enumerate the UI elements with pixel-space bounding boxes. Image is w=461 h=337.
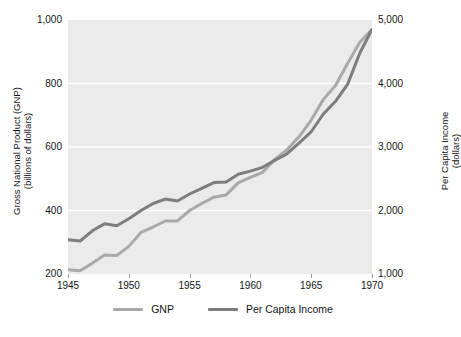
y-axis-right-tick-label: 1,000 bbox=[378, 268, 418, 279]
y-axis-right-tick-label: 3,000 bbox=[378, 141, 418, 152]
x-axis-tick-mark bbox=[190, 274, 191, 278]
legend-label: Per Capita Income bbox=[246, 303, 333, 315]
legend-line-swatch bbox=[113, 308, 143, 311]
y-axis-right-tick-label: 2,000 bbox=[378, 205, 418, 216]
x-axis-tick-mark bbox=[68, 274, 69, 278]
x-axis-tick-label: 1970 bbox=[352, 280, 392, 291]
x-axis-tick-mark bbox=[311, 274, 312, 278]
chart-legend: GNPPer Capita Income bbox=[0, 303, 446, 315]
y-axis-left-tick-label: 1,000 bbox=[26, 14, 62, 25]
x-axis-tick-label: 1945 bbox=[48, 280, 88, 291]
y-axis-right-title-line1: Per Capita Income bbox=[439, 71, 450, 231]
x-axis-tick-label: 1960 bbox=[230, 280, 270, 291]
plot-area bbox=[68, 20, 372, 274]
legend-item: GNP bbox=[113, 303, 174, 315]
y-axis-left-tick-label: 600 bbox=[26, 141, 62, 152]
legend-item: Per Capita Income bbox=[208, 303, 333, 315]
y-axis-left-title-line1: Gross National Product (GNP) bbox=[11, 71, 22, 231]
legend-label: GNP bbox=[151, 303, 174, 315]
x-axis-tick-mark bbox=[129, 274, 130, 278]
y-axis-left-tick-label: 200 bbox=[26, 268, 62, 279]
y-axis-left-tick-label: 800 bbox=[26, 78, 62, 89]
y-axis-right-title-line2: (dollars) bbox=[450, 71, 461, 231]
y-axis-right-title: Per Capita Income (dollars) bbox=[439, 71, 461, 231]
x-axis-tick-mark bbox=[250, 274, 251, 278]
y-axis-right-tick-label: 4,000 bbox=[378, 78, 418, 89]
x-axis-tick-mark bbox=[372, 274, 373, 278]
x-axis-tick-label: 1955 bbox=[170, 280, 210, 291]
y-axis-right-tick-label: 5,000 bbox=[378, 14, 418, 25]
x-axis-tick-label: 1965 bbox=[291, 280, 331, 291]
series-line-gnp bbox=[68, 30, 372, 271]
x-axis-tick-label: 1950 bbox=[109, 280, 149, 291]
chart-canvas bbox=[68, 20, 372, 274]
y-axis-left-tick-label: 400 bbox=[26, 205, 62, 216]
legend-line-swatch bbox=[208, 308, 238, 311]
series-line-per-capita-income bbox=[68, 30, 372, 241]
